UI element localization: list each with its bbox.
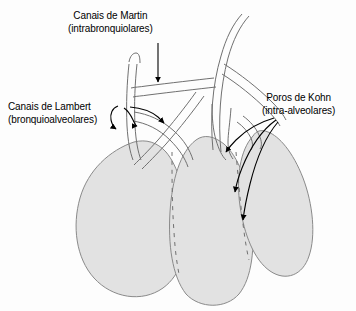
diagram-canvas <box>0 0 356 311</box>
lambert-arrow-1 <box>111 106 118 129</box>
lambert-arrows-group <box>111 106 164 129</box>
label-lambert-line1: Canais de Lambert <box>8 101 97 114</box>
label-kohn-line1: Poros de Kohn <box>262 92 335 105</box>
label-canais-de-lambert: Canais de Lambert (bronquioalveolares) <box>8 101 97 126</box>
left-bronchiole-tip <box>129 53 140 63</box>
label-martin-line2: (intrabronquiolares) <box>68 23 153 36</box>
main-bronchiole-inner-wall <box>220 16 249 152</box>
alveolar-sacs-group <box>76 131 313 306</box>
label-poros-de-kohn: Poros de Kohn (intra-alveolares) <box>262 92 335 117</box>
label-martin-line1: Canais de Martin <box>68 10 153 23</box>
label-kohn-line2: (intra-alveolares) <box>262 105 335 118</box>
lateral-branch-upper-wall <box>131 78 214 88</box>
main-bronchiole-outer-wall <box>212 14 242 150</box>
lung-collateral-ventilation-diagram: Canais de Martin (intrabronquiolares) Ca… <box>0 0 356 311</box>
lateral-branch-lower-wall <box>133 87 216 97</box>
label-canais-de-martin: Canais de Martin (intrabronquiolares) <box>68 10 153 35</box>
label-lambert-line2: (bronquioalveolares) <box>8 114 97 127</box>
